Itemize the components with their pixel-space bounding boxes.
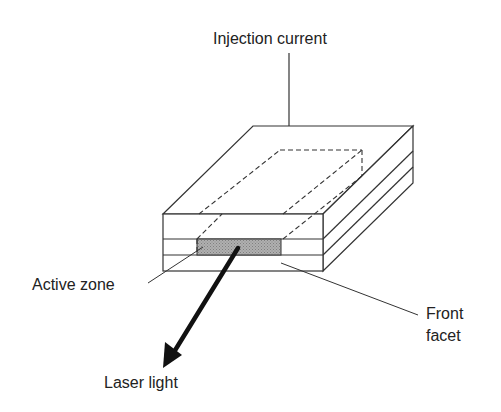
front-facet-label-line1: Front <box>426 305 464 322</box>
laser-diode-diagram: Injection current Active zone Front face… <box>0 0 501 412</box>
active-zone-label: Active zone <box>32 276 115 293</box>
injection-current-label: Injection current <box>213 30 327 47</box>
front-facet-label-line2: facet <box>426 327 461 344</box>
laser-light-label: Laser light <box>104 374 178 391</box>
front-facet-leader <box>281 263 418 315</box>
